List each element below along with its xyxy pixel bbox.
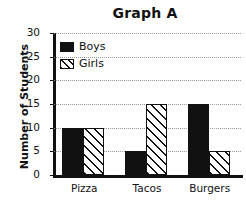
x-axis-label-burgers: Burgers [170,182,246,194]
y-axis-tick-label: 20 [14,74,40,85]
y-axis-tick-mark [50,33,54,34]
chart-legend: BoysGirls [60,39,120,73]
y-axis-tick-mark [50,104,54,105]
legend-label: Boys [79,40,106,53]
bar-burgers-boys [188,104,209,175]
chart-title: Graph A [60,5,230,21]
bar-pizza-girls [83,128,104,175]
y-axis-tick-label: 10 [14,122,40,133]
y-axis-tick-mark [50,57,54,58]
bar-tacos-boys [125,151,146,175]
bar-chart: Graph A Number of Students 051015202530 … [0,0,246,205]
bar-pizza-boys [62,128,83,175]
legend-item-girls: Girls [60,56,120,71]
bar-tacos-girls [146,104,167,175]
y-axis-tick-label: 30 [14,27,40,38]
bar-burgers-girls [209,151,230,175]
gridline [53,33,241,34]
solid-black-swatch [60,42,74,52]
legend-item-boys: Boys [60,39,120,54]
y-axis-tick-mark [50,80,54,81]
x-axis-line [53,175,243,178]
y-axis-tick-label: 5 [14,145,40,156]
legend-label: Girls [79,57,104,70]
y-axis-tick-mark [50,175,54,176]
y-axis-tick-mark [50,151,54,152]
y-axis-tick-label: 15 [14,98,40,109]
y-axis-tick-label: 25 [14,51,40,62]
y-axis-tick-mark [50,128,54,129]
gridline [53,80,241,81]
hatched-swatch [60,59,74,69]
y-axis-tick-label: 0 [14,169,40,180]
